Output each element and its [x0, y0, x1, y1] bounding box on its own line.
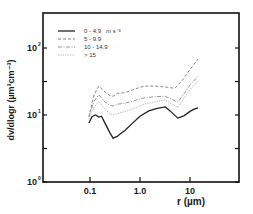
y-tick-exponent: 2	[38, 41, 41, 47]
chart: 0.11.010 100101102 0 - 4.95 - 9.910 - 14…	[0, 0, 253, 214]
y-tick-label: 10	[27, 43, 37, 53]
legend-label: 0 - 4.9	[84, 28, 102, 34]
series-line-0	[89, 107, 198, 138]
y-axis-label: dv/dlogr (µm³cm⁻³)	[6, 59, 16, 140]
x-tick-label: 0.1	[84, 186, 97, 196]
x-tick-label: 10	[185, 186, 195, 196]
legend-label: 10 - 14.9	[84, 44, 108, 50]
x-tick-label: 1.0	[134, 186, 147, 196]
legend-label: 5 - 9.9	[84, 36, 102, 42]
y-axis-ticks: 100101102	[27, 41, 239, 187]
y-tick-label: 10	[27, 110, 37, 120]
series-line-2	[89, 76, 198, 116]
legend-unit: m s⁻¹	[106, 28, 121, 34]
series-line-1	[89, 59, 198, 117]
plot-frame	[43, 13, 239, 182]
y-tick-exponent: 0	[38, 175, 41, 181]
y-tick-exponent: 1	[38, 108, 41, 114]
legend-label: > 15	[84, 52, 97, 58]
x-axis-label: r (µm)	[177, 196, 205, 207]
y-tick-label: 10	[27, 177, 37, 187]
x-axis-ticks: 0.11.010	[84, 177, 195, 196]
series-layer	[89, 59, 198, 138]
legend: 0 - 4.95 - 9.910 - 14.9> 15m s⁻¹	[58, 28, 121, 58]
